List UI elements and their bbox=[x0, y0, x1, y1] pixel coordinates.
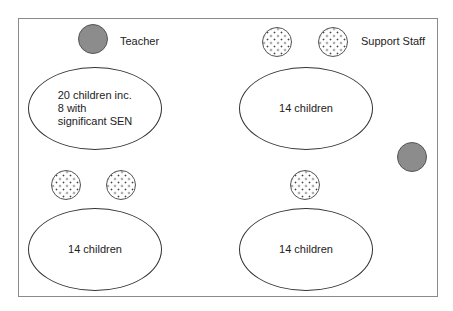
support-staff-marker bbox=[290, 170, 320, 200]
table-group-1: 20 children inc. 8 with significant SEN bbox=[28, 67, 162, 150]
table-label: 14 children bbox=[68, 243, 122, 256]
teacher-label: Teacher bbox=[120, 35, 159, 47]
teacher-marker bbox=[78, 24, 108, 54]
teacher-marker bbox=[397, 142, 427, 172]
support-staff-label: Support Staff bbox=[361, 35, 425, 47]
support-staff-marker bbox=[51, 170, 81, 200]
support-staff-marker bbox=[318, 27, 348, 57]
table-label: 14 children bbox=[279, 102, 333, 115]
table-label: 20 children inc. 8 with significant SEN bbox=[58, 89, 133, 128]
table-label: 14 children bbox=[279, 243, 333, 256]
support-staff-marker bbox=[262, 27, 292, 57]
table-group-2: 14 children bbox=[239, 67, 373, 150]
support-staff-marker bbox=[106, 170, 136, 200]
table-group-3: 14 children bbox=[28, 208, 162, 291]
table-group-4: 14 children bbox=[239, 208, 373, 291]
